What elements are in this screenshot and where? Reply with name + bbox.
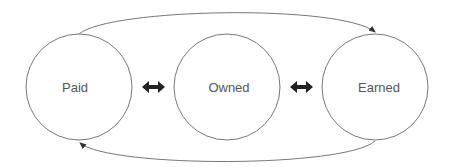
double-arrow-icon: [290, 81, 313, 93]
node-paid: Paid: [26, 34, 132, 140]
arc-earned-to-paid: [80, 141, 375, 162]
arc-paid-to-earned: [79, 13, 375, 34]
double-arrow-icon: [142, 81, 165, 93]
node-owned: Owned: [174, 34, 280, 140]
node-earned: Earned: [322, 34, 428, 140]
paid-owned-earned-diagram: Paid Owned Earned: [0, 0, 454, 167]
node-owned-label: Owned: [208, 80, 249, 95]
node-paid-label: Paid: [62, 80, 88, 95]
node-earned-label: Earned: [358, 80, 400, 95]
